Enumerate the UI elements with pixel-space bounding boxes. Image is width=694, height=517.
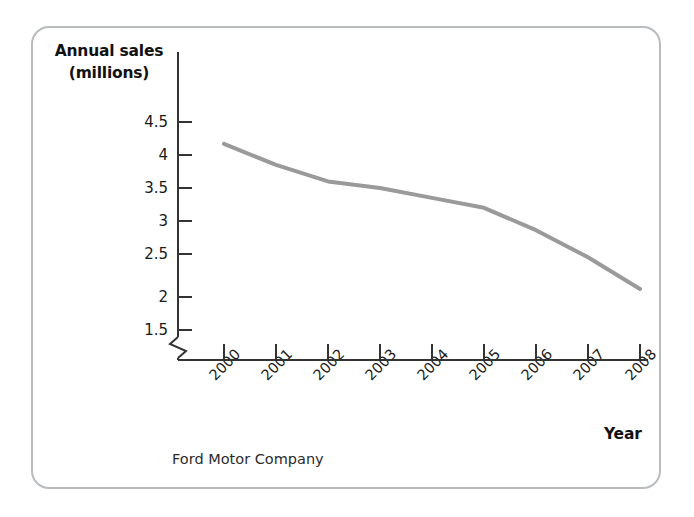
y-axis-title: Annual sales (millions) — [45, 40, 173, 84]
y-tick-label-2-5: 2.5 — [120, 245, 168, 263]
y-axis-title-line2: (millions) — [45, 62, 173, 84]
figure-caption: Ford Motor Company — [172, 451, 324, 467]
y-tick-label-3: 3 — [120, 212, 168, 230]
y-tick-label-1-5: 1.5 — [120, 321, 168, 339]
y-tick-label-3-5: 3.5 — [120, 179, 168, 197]
y-axis-title-line1: Annual sales — [55, 42, 164, 60]
y-tick-label-4-5: 4.5 — [120, 113, 168, 131]
x-axis-title: Year — [604, 425, 642, 443]
y-tick-label-4: 4 — [120, 146, 168, 164]
y-tick-label-2: 2 — [120, 288, 168, 306]
